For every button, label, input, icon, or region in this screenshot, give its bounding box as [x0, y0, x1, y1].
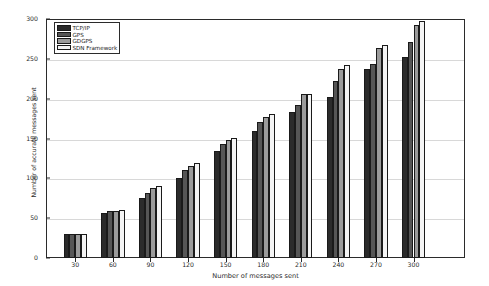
x-axis-tick-label: 120 — [168, 262, 208, 268]
x-axis-tick-mark — [376, 258, 377, 262]
bar-sdn-framework-120 — [194, 163, 200, 258]
bar-sdn-framework-90 — [156, 186, 162, 258]
bar-sdn-framework-60 — [119, 210, 125, 258]
y-axis-tick-mark — [46, 218, 50, 219]
legend-swatch-icon — [57, 45, 71, 50]
x-axis-tick-label: 180 — [243, 262, 283, 268]
x-axis-tick-mark — [226, 258, 227, 262]
x-axis-tick-label: 150 — [206, 262, 246, 268]
x-axis-tick-label: 210 — [281, 262, 321, 268]
bar-chart-figure: Number of accurate messages sent 0501001… — [0, 0, 489, 286]
y-axis-tick-mark — [46, 258, 50, 259]
x-axis-tick-mark — [113, 258, 114, 262]
legend-swatch-icon — [57, 32, 71, 37]
bar-sdn-framework-300 — [419, 21, 425, 258]
legend-item: SDN Framework — [57, 45, 118, 51]
chart-legend: TCP/IPGPSGDGPSSDN Framework — [54, 22, 120, 54]
x-axis-tick-mark — [414, 258, 415, 262]
legend-swatch-icon — [57, 25, 71, 30]
x-axis-tick-mark — [338, 258, 339, 262]
y-axis-tick-label: 0 — [0, 255, 38, 261]
bar-group — [214, 19, 237, 258]
bar-sdn-framework-150 — [231, 138, 237, 258]
bar-group — [64, 19, 87, 258]
bar-sdn-framework-210 — [307, 94, 313, 258]
bar-group — [176, 19, 199, 258]
y-axis-tick-label: 250 — [0, 56, 38, 62]
legend-swatch-icon — [57, 38, 71, 43]
y-axis-tick-label: 300 — [0, 16, 38, 22]
bar-group — [252, 19, 275, 258]
y-axis-tick-mark — [46, 19, 50, 20]
legend-label: TCP/IP — [73, 25, 90, 31]
x-axis-tick-label: 240 — [318, 262, 358, 268]
y-axis-label: Number of accurate messages sent — [30, 43, 37, 243]
x-axis-label: Number of messages sent — [46, 272, 465, 280]
y-axis-tick-mark — [46, 138, 50, 139]
x-axis-tick-label: 270 — [356, 262, 396, 268]
y-axis-tick-label: 150 — [0, 135, 38, 141]
x-axis-tick-label: 90 — [130, 262, 170, 268]
x-axis-tick-label: 30 — [55, 262, 95, 268]
bar-sdn-framework-270 — [382, 45, 388, 259]
bar-sdn-framework-240 — [344, 65, 350, 258]
y-axis-tick-label: 50 — [0, 215, 38, 221]
bar-sdn-framework-180 — [269, 114, 275, 258]
bar-group — [139, 19, 162, 258]
bar-group — [289, 19, 312, 258]
y-axis-tick-label: 200 — [0, 96, 38, 102]
y-axis-tick-mark — [46, 178, 50, 179]
x-axis-tick-mark — [188, 258, 189, 262]
bar-sdn-framework-30 — [81, 234, 87, 258]
legend-item: GPS — [57, 31, 118, 37]
x-axis-tick-mark — [150, 258, 151, 262]
y-axis-tick-label: 100 — [0, 175, 38, 181]
x-axis-tick-mark — [75, 258, 76, 262]
legend-label: GDGPS — [73, 38, 93, 44]
y-axis-tick-mark — [46, 58, 50, 59]
bar-group — [402, 19, 425, 258]
legend-label: SDN Framework — [73, 45, 118, 51]
legend-label: GPS — [73, 32, 84, 38]
x-axis-tick-mark — [263, 258, 264, 262]
x-axis-tick-label: 60 — [93, 262, 133, 268]
bar-group — [101, 19, 124, 258]
x-axis-tick-label: 300 — [394, 262, 434, 268]
x-axis-tick-mark — [301, 258, 302, 262]
y-axis-tick-mark — [46, 98, 50, 99]
legend-item: GDGPS — [57, 38, 118, 44]
legend-item: TCP/IP — [57, 25, 118, 31]
bar-group — [327, 19, 350, 258]
bar-group — [364, 19, 387, 258]
